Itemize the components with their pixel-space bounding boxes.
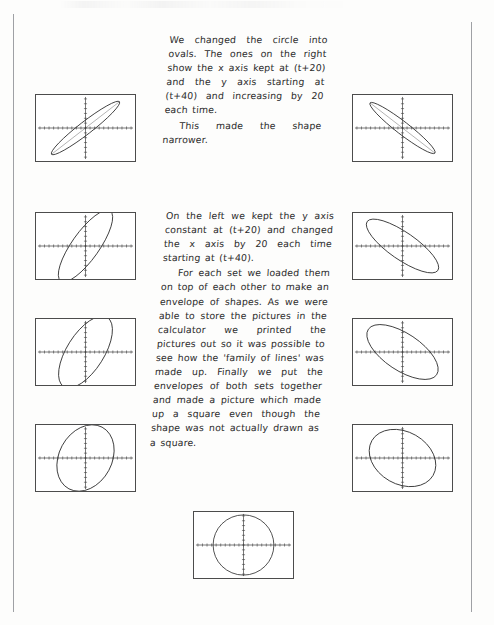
text-block-intro: We changed the circle into ovals. The on… — [162, 33, 328, 147]
calculator-screen-wide-oval-negative-slope — [35, 318, 136, 386]
calculator-screen-near-circle-oval-right — [352, 424, 453, 492]
calculator-screen-medium-oval-positive-slope — [352, 212, 453, 280]
calculator-screen-narrow-oval-positive-slope — [352, 94, 453, 162]
screen-plot — [36, 425, 135, 491]
screen-plot — [194, 512, 293, 578]
page-rule-left — [13, 14, 14, 612]
text-block-method: On the left we kept the y axis constant … — [150, 209, 335, 450]
calculator-screen-wide-oval-positive-slope — [352, 318, 453, 386]
paragraph: For each set we loaded them on top of ea… — [150, 266, 331, 449]
paragraph: On the left we kept the y axis constant … — [162, 209, 334, 265]
screen-plot — [36, 213, 135, 279]
calculator-screen-narrow-oval-negative-slope — [35, 94, 136, 162]
screen-plot — [353, 95, 452, 161]
screen-plot — [36, 319, 135, 385]
page-rule-right — [471, 22, 472, 612]
paragraph: This made the shape narrower. — [162, 119, 322, 147]
screen-plot — [36, 95, 135, 161]
scan-artefact-strip — [60, 1, 360, 8]
notebook-page: We changed the circle into ovals. The on… — [0, 0, 494, 625]
screen-plot — [353, 319, 452, 385]
calculator-screen-medium-oval-negative-slope — [35, 212, 136, 280]
calculator-screen-circle — [193, 511, 294, 579]
paragraph: We changed the circle into ovals. The on… — [164, 33, 328, 118]
calculator-screen-near-circle-oval — [35, 424, 136, 492]
screen-plot — [353, 213, 452, 279]
screen-plot — [353, 425, 452, 491]
